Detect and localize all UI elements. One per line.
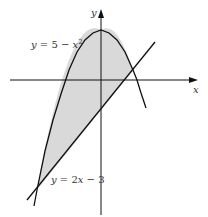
curve-label: y = 5 − x2 (30, 38, 83, 50)
y-axis-label: y (90, 7, 97, 18)
x-axis-label: x (193, 84, 199, 95)
y-axis-arrow-icon (98, 9, 104, 18)
x-axis-arrow-icon (189, 77, 198, 83)
shaded-region (37, 28, 133, 190)
area-between-curves-diagram: y = 5 − x2 y = 2x − 3 x y (0, 0, 208, 217)
line-label: y = 2x − 3 (50, 174, 105, 185)
